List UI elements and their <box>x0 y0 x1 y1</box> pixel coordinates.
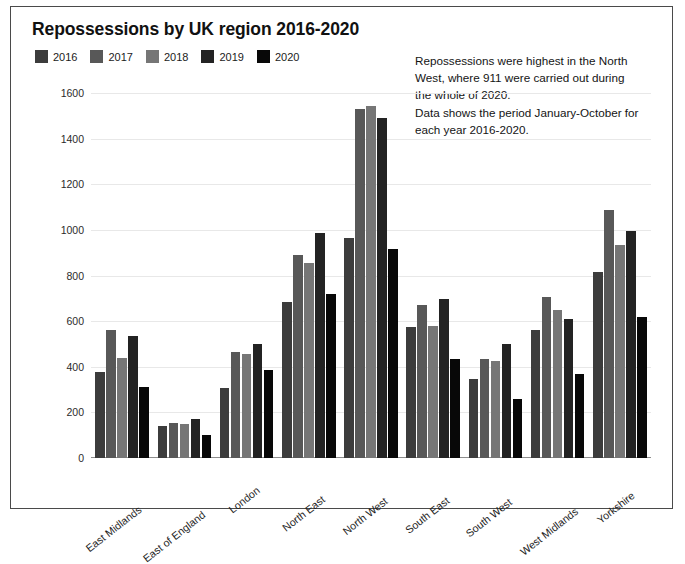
bar[interactable] <box>593 272 603 458</box>
legend-swatch-2016 <box>35 50 48 63</box>
x-axis-label-text: South East <box>403 494 452 536</box>
y-axis-tick-label: 0 <box>78 452 84 464</box>
bar[interactable] <box>191 419 201 458</box>
bar[interactable] <box>377 118 387 458</box>
legend-label-2020: 2020 <box>275 51 299 63</box>
bar[interactable] <box>158 426 168 458</box>
bar[interactable] <box>575 374 585 458</box>
legend-swatch-2020 <box>257 50 270 63</box>
x-axis-label: South East <box>444 462 493 504</box>
bar[interactable] <box>169 423 179 458</box>
bar-group <box>282 93 336 458</box>
annotation-line: Repossessions were highest in the North <box>415 52 665 69</box>
bar[interactable] <box>366 106 376 458</box>
x-axis-label: East Midlands <box>136 462 196 513</box>
legend-swatch-2017 <box>90 50 103 63</box>
bar-group <box>593 93 647 458</box>
bar-group <box>95 93 149 458</box>
chart-legend: 20162017201820192020 <box>35 50 299 63</box>
bar[interactable] <box>355 109 365 458</box>
bar[interactable] <box>253 344 263 458</box>
bar[interactable] <box>293 255 303 458</box>
legend-label-2017: 2017 <box>108 51 132 63</box>
bar-group <box>531 93 585 458</box>
bar[interactable] <box>231 352 241 458</box>
x-axis-labels: East MidlandsEast of EnglandLondonNorth … <box>91 458 651 518</box>
legend-label-2018: 2018 <box>164 51 188 63</box>
x-axis-label-text: South West <box>464 496 515 539</box>
bar[interactable] <box>139 387 149 458</box>
legend-item-2017[interactable]: 2017 <box>90 50 132 63</box>
bar[interactable] <box>220 388 230 458</box>
bar[interactable] <box>615 245 625 458</box>
bar[interactable] <box>315 233 325 458</box>
bar[interactable] <box>553 310 563 458</box>
bar-group <box>158 93 212 458</box>
legend-label-2016: 2016 <box>53 51 77 63</box>
legend-item-2020[interactable]: 2020 <box>257 50 299 63</box>
bar-group <box>469 93 523 458</box>
bar[interactable] <box>604 210 614 458</box>
y-axis-tick-label: 600 <box>66 315 84 327</box>
bar[interactable] <box>513 399 523 458</box>
bar[interactable] <box>480 359 490 458</box>
bar[interactable] <box>117 358 127 458</box>
y-axis-tick-label: 1400 <box>61 133 84 145</box>
bar[interactable] <box>202 435 212 458</box>
chart-title: Repossessions by UK region 2016-2020 <box>32 19 359 40</box>
bar[interactable] <box>542 297 552 458</box>
bar[interactable] <box>282 302 292 458</box>
bar[interactable] <box>242 354 252 458</box>
x-axis-label: South West <box>507 462 558 505</box>
x-axis-label-text: East Midlands <box>83 503 143 554</box>
legend-label-2019: 2019 <box>219 51 243 63</box>
y-axis-tick-label: 1600 <box>61 87 84 99</box>
bar[interactable] <box>95 372 105 458</box>
x-axis-label-text: West Midlands <box>517 505 579 557</box>
y-axis-tick-label: 400 <box>66 361 84 373</box>
chart-figure: Repossessions by UK region 2016-2020 201… <box>10 6 673 509</box>
bar[interactable] <box>106 330 116 458</box>
legend-item-2019[interactable]: 2019 <box>201 50 243 63</box>
bar[interactable] <box>626 231 636 458</box>
bar[interactable] <box>326 294 336 458</box>
bar[interactable] <box>637 317 647 458</box>
x-axis-label: North West <box>382 462 431 504</box>
bar[interactable] <box>502 344 512 458</box>
x-axis-label-text: North East <box>280 493 327 534</box>
bar-group <box>406 93 460 458</box>
bar[interactable] <box>417 305 427 458</box>
bar[interactable] <box>450 359 460 458</box>
bar-groups <box>91 93 651 458</box>
legend-item-2016[interactable]: 2016 <box>35 50 77 63</box>
bar[interactable] <box>531 330 541 458</box>
bar[interactable] <box>406 327 416 458</box>
x-axis-label: North East <box>319 462 366 503</box>
y-axis-tick-label: 1000 <box>61 224 84 236</box>
legend-swatch-2018 <box>146 50 159 63</box>
annotation-line: West, where 911 were carried out during <box>415 69 665 86</box>
y-axis-tick-label: 800 <box>66 270 84 282</box>
bar[interactable] <box>304 263 314 458</box>
bar[interactable] <box>564 319 574 458</box>
bar[interactable] <box>264 370 274 458</box>
bar-group <box>344 93 398 458</box>
bar[interactable] <box>491 361 501 458</box>
x-axis-label-text: East of England <box>141 508 208 564</box>
bar[interactable] <box>428 326 438 458</box>
x-axis-label-text: North West <box>340 495 389 537</box>
bar[interactable] <box>344 238 354 458</box>
y-axis-tick-label: 1200 <box>61 178 84 190</box>
bar[interactable] <box>128 336 138 458</box>
bar[interactable] <box>180 424 190 458</box>
bar[interactable] <box>439 299 449 458</box>
y-axis-tick-label: 200 <box>66 406 84 418</box>
x-axis-label: Yorkshire <box>629 462 671 499</box>
legend-swatch-2019 <box>201 50 214 63</box>
legend-item-2018[interactable]: 2018 <box>146 50 188 63</box>
plot-area: 02004006008001000120014001600 <box>91 93 651 458</box>
bar[interactable] <box>469 379 479 458</box>
bar[interactable] <box>388 249 398 458</box>
bar-group <box>220 93 274 458</box>
